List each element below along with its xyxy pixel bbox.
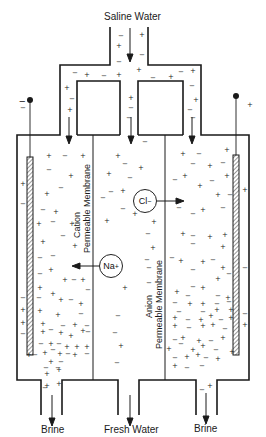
svg-text:−: − [196, 150, 202, 158]
svg-text:−: − [145, 230, 151, 238]
svg-text:+: + [200, 206, 206, 214]
svg-text:−: − [71, 276, 77, 284]
svg-text:+: + [58, 296, 64, 304]
ion-charges: −++ −−+ −+− +−+ −++ −++ −−+ −−− −+ +−+ −… [20, 31, 253, 394]
svg-text:−: − [101, 72, 107, 80]
svg-text:+: + [220, 243, 226, 251]
svg-text:−: − [169, 254, 175, 262]
svg-text:+: + [138, 164, 144, 172]
svg-text:−: − [190, 210, 196, 218]
svg-text:+: + [68, 172, 74, 180]
svg-text:−: − [20, 330, 26, 338]
svg-text:+: + [195, 351, 201, 359]
svg-text:+: + [215, 191, 221, 199]
sodium-ion: Na+ [99, 254, 123, 278]
svg-text:+: + [62, 276, 68, 284]
svg-text:−: − [37, 270, 43, 278]
svg-text:−: − [178, 68, 184, 76]
svg-text:−: − [199, 386, 205, 394]
svg-text:−: − [215, 292, 221, 300]
svg-text:−: − [100, 194, 106, 202]
svg-text:−: − [172, 299, 178, 307]
svg-text:−: − [78, 310, 84, 318]
svg-text:−: − [190, 240, 196, 248]
svg-text:+: + [74, 343, 80, 351]
svg-text:−: − [69, 95, 75, 103]
svg-text:−: − [72, 69, 78, 77]
svg-text:−: − [122, 160, 128, 168]
svg-text:+: + [224, 146, 230, 154]
svg-text:−: − [184, 364, 190, 372]
svg-text:−: − [172, 176, 178, 184]
svg-text:+: + [56, 380, 62, 388]
svg-text:−: − [213, 346, 219, 354]
svg-text:+: + [200, 258, 206, 266]
svg-text:+: + [180, 150, 186, 158]
svg-text:−: − [226, 298, 232, 306]
svg-text:−: − [176, 204, 182, 212]
svg-text:+: + [136, 66, 142, 74]
svg-text:+: + [242, 321, 248, 329]
svg-text:+: + [182, 172, 188, 180]
svg-text:−: − [178, 340, 184, 348]
svg-text:−: − [203, 354, 209, 362]
svg-text:+: + [242, 186, 248, 194]
svg-text:+: + [132, 210, 138, 218]
svg-text:+: + [50, 290, 56, 298]
svg-text:−: − [172, 354, 178, 362]
svg-text:+: + [58, 329, 64, 337]
svg-text:−: − [115, 312, 121, 320]
electrode-right [233, 93, 239, 355]
svg-text:+: + [247, 101, 253, 109]
svg-text:−: − [85, 286, 91, 294]
svg-text:+: + [78, 300, 84, 308]
svg-text:+: + [184, 353, 190, 361]
svg-text:−: − [189, 82, 195, 90]
svg-text:−: − [190, 232, 196, 240]
svg-text:−: − [226, 270, 232, 278]
svg-text:−: − [58, 184, 64, 192]
brine-left-label: Brine [41, 424, 64, 435]
svg-text:+: + [228, 314, 234, 322]
svg-text:−: − [199, 362, 205, 370]
svg-text:+: + [190, 67, 196, 75]
electrodialysis-diagram: −++ −−+ −+− +−+ −++ −++ −−+ −−− −+ +−+ −… [0, 0, 266, 437]
svg-text:−: − [185, 316, 191, 324]
svg-text:−: − [209, 177, 215, 185]
svg-text:−: − [150, 74, 156, 82]
svg-text:−: − [32, 351, 38, 359]
svg-text:−: − [65, 350, 71, 358]
svg-text:+: + [46, 152, 52, 160]
svg-text:−: − [190, 266, 196, 274]
svg-text:−: − [186, 324, 192, 332]
svg-text:+: + [150, 244, 156, 252]
svg-text:−: − [20, 294, 26, 302]
svg-text:+: + [178, 257, 184, 265]
svg-text:+: + [72, 351, 78, 359]
svg-text:−: − [190, 160, 196, 168]
svg-text:+: + [122, 284, 128, 292]
svg-text:−: − [108, 188, 114, 196]
svg-text:+: + [200, 342, 206, 350]
svg-text:+: + [215, 275, 221, 283]
svg-text:+: + [48, 358, 54, 366]
svg-text:−: − [127, 174, 133, 182]
svg-text:−: − [242, 310, 248, 318]
svg-text:+: + [215, 355, 221, 363]
svg-text:+: + [20, 319, 26, 327]
svg-text:+: + [56, 366, 62, 374]
svg-text:+: + [64, 84, 70, 92]
svg-text:−: − [56, 340, 62, 348]
svg-text:−: − [60, 232, 66, 240]
svg-text:−: − [218, 316, 224, 324]
svg-text:+: + [37, 307, 43, 315]
svg-text:+: + [116, 71, 122, 79]
svg-text:+: + [214, 306, 220, 314]
svg-text:+: + [197, 182, 203, 190]
svg-text:+: + [42, 349, 48, 357]
svg-text:+: + [200, 284, 206, 292]
svg-text:+: + [229, 348, 235, 356]
chloride-ion: Cl− [133, 189, 157, 213]
svg-text:+: + [116, 42, 122, 50]
svg-text:+: + [222, 231, 228, 239]
